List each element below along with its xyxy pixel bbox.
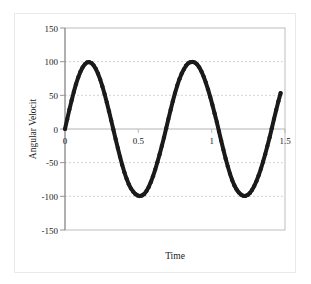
- series-marker: [230, 178, 234, 182]
- series-marker: [268, 136, 272, 140]
- series-marker: [250, 188, 254, 192]
- series-marker: [127, 182, 131, 186]
- series-marker: [114, 137, 118, 141]
- series-marker: [173, 91, 177, 95]
- series-marker: [272, 117, 276, 121]
- series-marker: [74, 82, 78, 86]
- chart-figure: 150 100 50 0 -50 -100 -150 0 0.5 1 1.5 A…: [0, 0, 311, 284]
- ytick-label-100: 100: [45, 57, 59, 67]
- series-marker: [232, 183, 236, 187]
- series-marker: [92, 63, 96, 67]
- series-marker: [103, 92, 107, 96]
- series-marker: [94, 67, 98, 71]
- series-marker: [122, 170, 126, 174]
- series-marker: [265, 144, 269, 148]
- series-marker: [96, 72, 100, 76]
- ytick-label-0: 0: [54, 125, 59, 135]
- ytick-label-50: 50: [49, 91, 59, 101]
- series-marker: [206, 87, 210, 91]
- series-marker: [151, 174, 155, 178]
- chart-plot: 150 100 50 0 -50 -100 -150 0 0.5 1 1.5 A…: [0, 0, 311, 284]
- series-marker: [70, 98, 74, 102]
- series-marker: [98, 77, 102, 81]
- series-marker: [169, 108, 173, 112]
- series-marker: [257, 173, 261, 177]
- series-marker: [208, 95, 212, 99]
- series-marker: [158, 152, 162, 156]
- series-marker: [78, 70, 82, 74]
- series-marker: [76, 75, 80, 79]
- series-marker: [111, 128, 115, 132]
- series-marker: [63, 127, 67, 131]
- series-marker: [215, 120, 219, 124]
- series-marker: [213, 111, 217, 115]
- xtick-label-0: 0: [63, 136, 68, 146]
- series-marker: [149, 180, 153, 184]
- series-marker: [252, 184, 256, 188]
- series-marker: [177, 77, 181, 81]
- series-marker: [228, 172, 232, 176]
- series-marker: [118, 155, 122, 159]
- x-axis-title: Time: [165, 251, 185, 261]
- series-marker: [180, 72, 184, 76]
- series-marker: [175, 84, 179, 88]
- series-marker: [197, 65, 201, 69]
- series-marker: [105, 100, 109, 104]
- series-marker: [65, 117, 69, 121]
- series-marker: [171, 99, 175, 103]
- series-marker: [276, 99, 280, 103]
- ytick-label-minus-50: -50: [46, 158, 58, 168]
- y-axis-title: Angular Velocit: [28, 99, 38, 160]
- series-marker: [182, 67, 186, 71]
- series-marker: [166, 117, 170, 121]
- series-marker: [155, 160, 159, 164]
- series-marker: [199, 69, 203, 73]
- series-marker: [120, 163, 124, 167]
- ytick-label-minus-100: -100: [42, 192, 59, 202]
- series-marker: [279, 91, 283, 95]
- series-marker: [224, 156, 228, 160]
- ytick-label-minus-150: -150: [42, 226, 59, 236]
- series-marker: [270, 126, 274, 130]
- series-marker: [116, 146, 120, 150]
- series-marker: [67, 108, 71, 112]
- series-marker: [153, 168, 157, 172]
- series-marker: [210, 103, 214, 107]
- series-marker: [72, 90, 76, 94]
- series-marker: [164, 126, 168, 130]
- series-marker: [219, 139, 223, 143]
- series-marker: [160, 144, 164, 148]
- series-marker: [107, 109, 111, 113]
- series-marker: [274, 108, 278, 112]
- series-marker: [221, 148, 225, 152]
- series-marker: [144, 189, 148, 193]
- series-marker: [125, 177, 129, 181]
- series-marker: [263, 152, 267, 156]
- series-marker: [217, 129, 221, 133]
- xtick-label-0-5: 0.5: [133, 136, 145, 146]
- ytick-label-150: 150: [45, 24, 59, 34]
- series-marker: [254, 179, 258, 183]
- series-marker: [100, 84, 104, 88]
- series-marker: [109, 118, 113, 122]
- series-marker: [202, 74, 206, 78]
- xtick-label-1: 1: [209, 136, 214, 146]
- series-marker: [162, 136, 166, 140]
- series-marker: [204, 80, 208, 84]
- series-marker: [147, 185, 151, 189]
- xtick-label-1-5: 1.5: [279, 136, 291, 146]
- series-marker: [261, 160, 265, 164]
- series-marker: [226, 164, 230, 168]
- series-marker: [259, 167, 263, 171]
